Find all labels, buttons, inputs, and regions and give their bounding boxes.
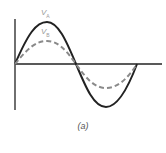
- va-label: VA: [41, 8, 50, 19]
- figure-caption: (a): [0, 121, 166, 131]
- vb-label: VB: [41, 27, 50, 38]
